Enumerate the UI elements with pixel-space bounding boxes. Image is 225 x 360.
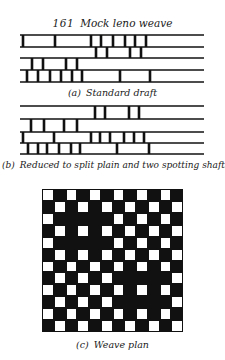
weave-cell-black bbox=[124, 308, 136, 320]
weave-cell-black bbox=[160, 201, 172, 213]
weave-cell-white bbox=[78, 250, 88, 260]
weave-cell-white bbox=[43, 262, 53, 272]
weave-cell-white bbox=[149, 202, 159, 212]
weave-cell-black bbox=[89, 237, 101, 249]
weave-cell-white bbox=[55, 297, 65, 307]
weave-cell-black bbox=[54, 261, 66, 273]
weave-cell-black bbox=[124, 284, 136, 296]
weave-cell-white bbox=[78, 202, 88, 212]
weave-cell-white bbox=[102, 250, 112, 260]
draft-mark bbox=[53, 132, 56, 143]
weave-cell-white bbox=[137, 190, 147, 200]
draft-mark bbox=[58, 143, 61, 154]
weave-cell-white bbox=[161, 285, 171, 295]
weave-cell-black bbox=[42, 272, 54, 284]
weave-cell-black bbox=[66, 320, 78, 332]
draft-mark bbox=[94, 106, 97, 119]
weave-cell-black bbox=[77, 189, 89, 201]
weave-cell-black bbox=[101, 189, 113, 201]
weave-cell-black bbox=[54, 213, 66, 225]
weave-cell-white bbox=[172, 226, 182, 236]
draft-mark bbox=[70, 143, 73, 154]
weave-cell-black bbox=[54, 237, 66, 249]
weave-cell-white bbox=[55, 250, 65, 260]
caption-text: Weave plan bbox=[94, 339, 149, 350]
weave-cell-white bbox=[161, 238, 171, 248]
weave-cell-white bbox=[149, 321, 159, 331]
weave-cell-black bbox=[66, 201, 78, 213]
weave-cell-black bbox=[124, 189, 136, 201]
weave-cell-black bbox=[160, 296, 172, 308]
weave-cell-white bbox=[55, 273, 65, 283]
weave-cell-black bbox=[171, 189, 183, 201]
weave-cell-black bbox=[148, 284, 160, 296]
weave-cell-black bbox=[89, 320, 101, 332]
weave-cell-black bbox=[54, 284, 66, 296]
draft-mark bbox=[43, 119, 46, 132]
weave-cell-black bbox=[148, 308, 160, 320]
weave-cell-black bbox=[54, 189, 66, 201]
weave-cell-black bbox=[66, 237, 78, 249]
weave-cell-white bbox=[172, 273, 182, 283]
weave-cell-black bbox=[148, 189, 160, 201]
weave-cell-black bbox=[89, 201, 101, 213]
weave-cell-black bbox=[66, 249, 78, 261]
weave-cell-black bbox=[113, 249, 125, 261]
weave-cell-black bbox=[148, 237, 160, 249]
weave-cell-white bbox=[67, 309, 77, 319]
weave-cell-black bbox=[160, 249, 172, 261]
weave-cell-black bbox=[124, 237, 136, 249]
weave-cell-black bbox=[136, 249, 148, 261]
weave-cell-white bbox=[137, 238, 147, 248]
draft-mark bbox=[148, 143, 151, 154]
weave-cell-black bbox=[77, 284, 89, 296]
weave-cell-white bbox=[55, 226, 65, 236]
weave-cell-black bbox=[77, 308, 89, 320]
weave-cell-black bbox=[160, 225, 172, 237]
weave-cell-white bbox=[78, 321, 88, 331]
weave-cell-white bbox=[90, 190, 100, 200]
weave-cell-black bbox=[89, 272, 101, 284]
weave-cell-black bbox=[89, 296, 101, 308]
draft-mark bbox=[133, 132, 136, 143]
draft-mark bbox=[46, 143, 49, 154]
weave-cell-black bbox=[113, 272, 125, 284]
draft-mark bbox=[109, 132, 112, 143]
draft-mark bbox=[27, 143, 30, 154]
weave-cell-black bbox=[148, 213, 160, 225]
weave-cell-white bbox=[114, 262, 124, 272]
weave-cell-black bbox=[66, 225, 78, 237]
weave-cell-black bbox=[113, 225, 125, 237]
weave-cell-white bbox=[90, 262, 100, 272]
draft-mark bbox=[76, 119, 79, 132]
weave-cell-white bbox=[67, 262, 77, 272]
draft-mark bbox=[22, 132, 25, 143]
weave-cell-black bbox=[113, 296, 125, 308]
weave-cell-white bbox=[125, 250, 135, 260]
weave-cell-white bbox=[102, 321, 112, 331]
weave-cell-white bbox=[90, 309, 100, 319]
weave-cell-white bbox=[125, 202, 135, 212]
draft-mark bbox=[90, 132, 93, 143]
weave-cell-black bbox=[42, 201, 54, 213]
weave-cell-black bbox=[136, 296, 148, 308]
weave-cell-black bbox=[171, 237, 183, 249]
weave-cell-black bbox=[113, 201, 125, 213]
weave-cell-white bbox=[43, 309, 53, 319]
weave-cell-white bbox=[114, 309, 124, 319]
weave-cell-black bbox=[66, 296, 78, 308]
weave-cell-black bbox=[77, 213, 89, 225]
draft-mark bbox=[116, 143, 119, 154]
weave-cell-black bbox=[54, 308, 66, 320]
weave-cell-black bbox=[136, 320, 148, 332]
weave-cell-black bbox=[89, 213, 101, 225]
weave-cell-white bbox=[90, 285, 100, 295]
weave-cell-black bbox=[101, 213, 113, 225]
weave-cell-white bbox=[137, 262, 147, 272]
weave-cell-white bbox=[172, 250, 182, 260]
weave-cell-white bbox=[55, 202, 65, 212]
weave-cell-black bbox=[42, 225, 54, 237]
weave-cell-black bbox=[136, 272, 148, 284]
draft-mark bbox=[123, 132, 126, 143]
weave-cell-black bbox=[113, 320, 125, 332]
